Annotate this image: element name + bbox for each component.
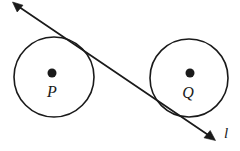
circle-q-label: Q — [182, 84, 194, 101]
geometry-canvas: P Q l — [0, 0, 240, 151]
tangent-line-arrow-end-icon — [204, 131, 216, 141]
tangent-line-arrow-start-icon — [13, 2, 24, 12]
circle-q-center-dot — [186, 69, 195, 78]
circle-q-outline — [150, 39, 228, 117]
circle-p-center-dot — [48, 69, 57, 78]
circle-p-label: P — [46, 83, 57, 100]
tangent-line-label: l — [224, 125, 228, 141]
geometry-figure: P Q l — [0, 0, 240, 151]
